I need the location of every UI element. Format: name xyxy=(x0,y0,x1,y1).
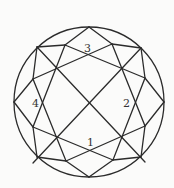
facet-label-2: 2 xyxy=(123,97,130,110)
gem-facet-drawing: 3 2 4 1 xyxy=(0,0,174,188)
facet-label-1: 1 xyxy=(87,136,94,149)
facet-label-3: 3 xyxy=(84,42,91,55)
gem-diagram: 3 2 4 1 xyxy=(0,0,174,188)
facet-label-4: 4 xyxy=(32,97,39,110)
